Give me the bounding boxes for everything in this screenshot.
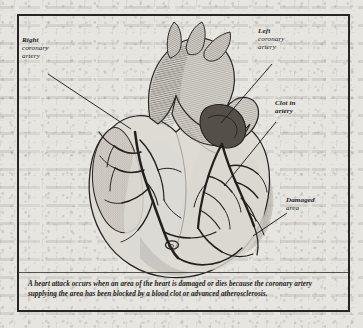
caption-divider	[19, 272, 348, 273]
label-right-coronary-line2: coronary	[22, 44, 49, 52]
figure-page: Right coronary artery Left coronary arte…	[0, 0, 363, 328]
label-left-coronary-artery: Left coronary artery	[258, 27, 285, 52]
label-right-coronary-line3: artery	[22, 52, 49, 60]
label-left-coronary-line1: Left	[258, 27, 285, 35]
label-left-coronary-line2: coronary	[258, 35, 285, 43]
label-damaged-area: Damaged area	[286, 196, 315, 212]
figure-frame	[17, 14, 350, 312]
label-clot-line1: Clot in	[275, 99, 296, 107]
label-right-coronary-artery: Right coronary artery	[22, 36, 49, 61]
label-damaged-line2: area	[286, 204, 315, 212]
label-clot-line2: artery	[275, 107, 296, 115]
figure-caption: A heart attack occurs when an area of th…	[28, 279, 340, 299]
label-right-coronary-line1: Right	[22, 36, 49, 44]
label-clot-in-artery: Clot in artery	[275, 99, 296, 115]
label-left-coronary-line3: artery	[258, 43, 285, 51]
label-damaged-line1: Damaged	[286, 196, 315, 204]
